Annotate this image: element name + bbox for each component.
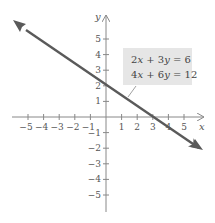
svg-text:−3: −3 — [88, 159, 102, 169]
svg-text:1: 1 — [119, 122, 125, 132]
svg-text:−2: −2 — [88, 143, 101, 153]
svg-text:2: 2 — [134, 122, 140, 132]
line-arrowhead-start — [13, 20, 26, 32]
equation-1: 2x + 3y = 6 — [131, 54, 191, 65]
svg-text:3: 3 — [95, 65, 101, 75]
svg-text:−5: −5 — [88, 190, 102, 200]
svg-text:5: 5 — [181, 122, 187, 132]
graph: −5 −4 −3 −2 −1 1 2 3 4 5 5 4 3 2 1 −1 −2… — [0, 0, 215, 223]
equation-2: 4x + 6y = 12 — [131, 69, 197, 80]
svg-text:3: 3 — [150, 122, 156, 132]
svg-text:5: 5 — [95, 34, 101, 44]
svg-text:−2: −2 — [66, 122, 79, 132]
y-axis-label: y — [94, 11, 101, 22]
svg-text:−5: −5 — [19, 122, 33, 132]
svg-text:−1: −1 — [88, 128, 101, 138]
svg-text:−4: −4 — [35, 122, 49, 132]
svg-text:4: 4 — [95, 50, 101, 60]
svg-text:−3: −3 — [51, 122, 65, 132]
label-leader-line — [128, 86, 136, 97]
svg-text:1: 1 — [95, 96, 101, 106]
svg-text:2: 2 — [95, 81, 101, 91]
x-axis-label: x — [199, 121, 205, 132]
svg-text:−4: −4 — [88, 174, 102, 184]
